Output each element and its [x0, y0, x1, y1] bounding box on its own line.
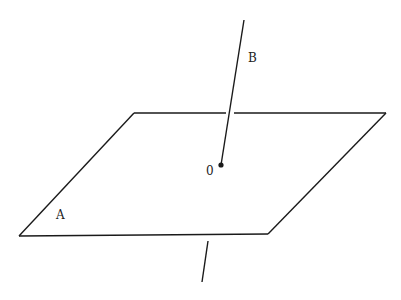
label-intersection: 0	[206, 164, 214, 178]
intersection-point	[218, 162, 223, 167]
diagram-canvas: B 0 A	[0, 0, 401, 300]
plane-a	[19, 113, 386, 236]
line-b-upper	[221, 20, 244, 165]
plane-right-edge	[268, 113, 386, 234]
plane-left-edge	[19, 113, 134, 236]
label-plane-a: A	[55, 208, 65, 222]
line-b-lower	[202, 241, 208, 282]
plane-bottom-edge	[19, 234, 268, 236]
label-line-b: B	[248, 51, 257, 65]
